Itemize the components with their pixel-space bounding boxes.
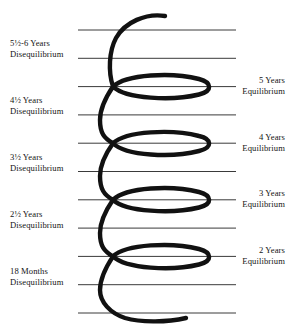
stage-label-3-years: 3 Years Equilibrium — [242, 188, 285, 211]
stage-label-title: 2½ Years — [10, 209, 63, 220]
stage-label-title: 5½-6 Years — [10, 38, 63, 49]
stage-label-title: 3 Years — [242, 188, 285, 199]
stage-label-state: Disequilibrium — [10, 163, 63, 174]
stage-label-state: Disequilibrium — [10, 49, 63, 60]
stage-label-state: Equilibrium — [242, 86, 285, 97]
stage-label-2half-years: 2½ Years Disequilibrium — [10, 209, 63, 232]
stage-label-5-years: 5 Years Equilibrium — [242, 75, 285, 98]
stage-label-state: Equilibrium — [242, 199, 285, 210]
stage-label-state: Disequilibrium — [10, 106, 63, 117]
stage-label-2-years: 2 Years Equilibrium — [242, 245, 285, 268]
spiral-development-diagram: 5½-6 Years Disequilibrium 4½ Years Diseq… — [0, 0, 291, 327]
stage-label-5half-6-years: 5½-6 Years Disequilibrium — [10, 38, 63, 61]
stage-label-title: 5 Years — [242, 75, 285, 86]
stage-label-title: 18 Months — [10, 266, 63, 277]
stage-label-title: 2 Years — [242, 245, 285, 256]
spiral-helix-path — [100, 15, 209, 321]
stage-label-state: Disequilibrium — [10, 220, 63, 231]
stage-label-title: 3½ Years — [10, 152, 63, 163]
stage-label-title: 4½ Years — [10, 95, 63, 106]
stage-label-state: Equilibrium — [242, 143, 285, 154]
stage-label-state: Equilibrium — [242, 256, 285, 267]
stage-label-state: Disequilibrium — [10, 277, 63, 288]
stage-label-title: 4 Years — [242, 132, 285, 143]
stage-label-3half-years: 3½ Years Disequilibrium — [10, 152, 63, 175]
stage-label-4-years: 4 Years Equilibrium — [242, 132, 285, 155]
stage-label-18-months: 18 Months Disequilibrium — [10, 266, 63, 289]
stage-label-4half-years: 4½ Years Disequilibrium — [10, 95, 63, 118]
